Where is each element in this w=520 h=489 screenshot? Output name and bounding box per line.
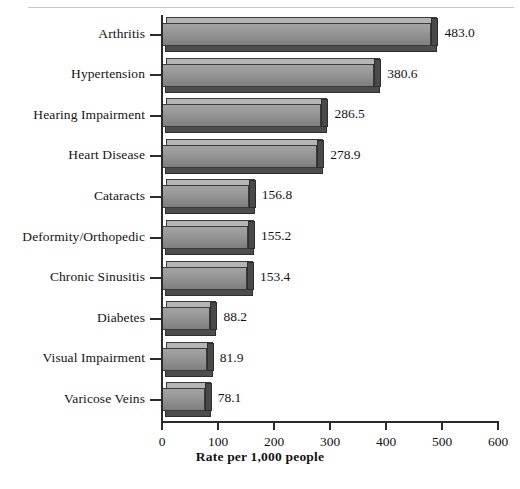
x-axis-tick [441, 421, 443, 430]
x-axis-tick-label: 0 [132, 434, 192, 450]
y-axis-tick [150, 196, 161, 198]
y-axis-tick [150, 318, 161, 320]
category-label-arthritis: Arthritis [0, 26, 145, 42]
x-axis-tick-label: 300 [300, 434, 360, 450]
y-axis-tick [150, 115, 161, 117]
x-axis-tick [161, 421, 163, 430]
category-label-diabetes: Diabetes [0, 310, 145, 326]
y-axis-tick [150, 277, 161, 279]
y-axis-tick [150, 237, 161, 239]
x-axis-tick-label: 500 [412, 434, 472, 450]
y-axis-line [161, 15, 163, 421]
category-label-varicose-veins: Varicose Veins [0, 391, 145, 407]
x-axis-tick-label: 100 [188, 434, 248, 450]
y-axis-tick [150, 74, 161, 76]
category-label-visual-impairment: Visual Impairment [0, 350, 145, 366]
x-axis-tick-label: 600 [468, 434, 520, 450]
category-label-cataracts: Cataracts [0, 188, 145, 204]
y-axis-tick [150, 358, 161, 360]
x-axis-tick [497, 421, 499, 430]
category-label-heart-disease: Heart Disease [0, 147, 145, 163]
bar-chart: Arthritis483.0Hypertension380.6Hearing I… [0, 0, 520, 489]
y-axis-tick [150, 155, 161, 157]
category-label-hypertension: Hypertension [0, 66, 145, 82]
plot-area: 0100200300400500600 [161, 15, 497, 421]
x-axis-title: Rate per 1,000 people [0, 449, 520, 465]
top-divider-rule [28, 7, 514, 8]
category-label-chronic-sinusitis: Chronic Sinusitis [0, 269, 145, 285]
y-axis-tick [150, 399, 161, 401]
x-axis-tick [217, 421, 219, 430]
x-axis-tick [329, 421, 331, 430]
x-axis-tick-label: 200 [244, 434, 304, 450]
category-label-hearing-impairment: Hearing Impairment [0, 107, 145, 123]
x-axis-tick [273, 421, 275, 430]
y-axis-tick [150, 34, 161, 36]
category-label-deformity-orthopedic: Deformity/Orthopedic [0, 229, 145, 245]
x-axis-tick [385, 421, 387, 430]
x-axis-tick-label: 400 [356, 434, 416, 450]
